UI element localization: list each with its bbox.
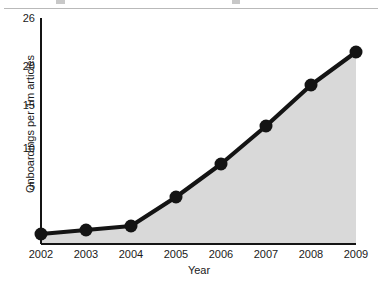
data-point-marker <box>215 158 228 171</box>
data-point-marker <box>80 224 93 237</box>
x-tick-label-2006: 2006 <box>204 249 238 260</box>
y-axis-title: Onboardings per 1m articles <box>24 39 36 209</box>
x-axis-title: Year <box>41 264 357 276</box>
y-tick-label-26: 26 <box>13 13 35 24</box>
x-tick-label-2007: 2007 <box>249 249 283 260</box>
x-tick-label-2005: 2005 <box>159 249 193 260</box>
data-point-marker <box>170 191 183 204</box>
chart-screenshot: 26 20 15 10 5 2002 2003 2004 2005 2006 2… <box>0 0 382 283</box>
x-tick-label-2004: 2004 <box>114 249 148 260</box>
x-tick-label-2002: 2002 <box>24 249 58 260</box>
data-point-marker <box>260 120 273 133</box>
x-tick-label-2003: 2003 <box>69 249 103 260</box>
data-point-marker <box>350 46 363 59</box>
chart-plot-svg <box>0 0 382 283</box>
x-tick-label-2009: 2009 <box>339 249 373 260</box>
data-point-marker <box>35 228 48 241</box>
x-tick-label-2008: 2008 <box>294 249 328 260</box>
data-point-marker <box>305 79 318 92</box>
data-point-marker <box>125 220 138 233</box>
